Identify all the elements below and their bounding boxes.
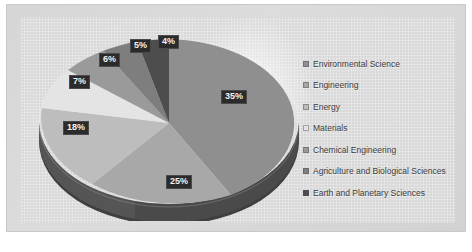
- legend-item-engineering: Engineering: [303, 75, 466, 97]
- chart-frame: 35% 25% 18% 7% 6% 5% 4% Environmental Sc…: [6, 4, 466, 232]
- legend-swatch-icon: [303, 82, 309, 88]
- slice-label-18: 18%: [63, 121, 89, 135]
- slice-label-25: 25%: [166, 175, 192, 189]
- slice-label-6: 6%: [99, 53, 120, 67]
- legend-swatch-icon: [303, 190, 309, 196]
- legend-item-label: Environmental Science: [313, 60, 400, 69]
- legend-item-label: Engineering: [313, 81, 358, 90]
- legend-item-environmental-science: Environmental Science: [303, 53, 466, 75]
- legend-item-chemical-engineering: Chemical Engineering: [303, 139, 466, 161]
- legend-item-label: Agriculture and Biological Sciences: [313, 167, 446, 176]
- legend-item-label: Materials: [313, 124, 347, 133]
- legend-item-materials: Materials: [303, 118, 466, 140]
- legend-item-label: Earth and Planetary Sciences: [313, 189, 425, 198]
- pie-chart: 35% 25% 18% 7% 6% 5% 4%: [25, 15, 299, 221]
- slice-label-35: 35%: [221, 90, 247, 104]
- legend-item-label: Energy: [313, 103, 340, 112]
- slice-label-7: 7%: [69, 75, 90, 89]
- legend-swatch-icon: [303, 125, 309, 131]
- legend: Environmental Science Engineering Energy…: [303, 53, 466, 204]
- legend-item-label: Chemical Engineering: [313, 146, 396, 155]
- legend-swatch-icon: [303, 168, 309, 174]
- legend-item-energy: Energy: [303, 96, 466, 118]
- legend-item-earth-planetary-sciences: Earth and Planetary Sciences: [303, 182, 466, 204]
- legend-swatch-icon: [303, 104, 309, 110]
- legend-swatch-icon: [303, 61, 309, 67]
- slice-label-4: 4%: [158, 35, 179, 49]
- legend-item-agriculture-biological-sciences: Agriculture and Biological Sciences: [303, 161, 466, 183]
- slice-label-5: 5%: [130, 39, 151, 53]
- legend-swatch-icon: [303, 147, 309, 153]
